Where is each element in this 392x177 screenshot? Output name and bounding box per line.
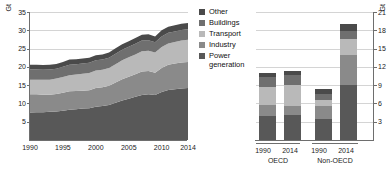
bar-label-nonoecd-2014: 2014 <box>333 147 359 155</box>
legend-swatch-icon <box>199 42 205 48</box>
bar-label-oecd-2014: 2014 <box>277 147 303 155</box>
left-axis-tick-5: 5 <box>12 118 26 125</box>
right-tickmark-15 <box>374 49 377 50</box>
nonoecd-group-rule <box>312 143 358 144</box>
legend-label: Power generation <box>209 52 244 69</box>
oecd-group-rule <box>256 143 300 144</box>
bar-segment-buildings <box>340 31 357 40</box>
legend-item-other[interactable]: Other <box>199 8 228 17</box>
right-tickmark-21 <box>374 12 377 13</box>
left-axis-tick-20: 20 <box>12 63 26 70</box>
chart-legend: OtherBuildingsTransportIndustryPower gen… <box>199 8 255 70</box>
right-axis-tick-18: 18 <box>378 27 392 34</box>
right-tickmark-6 <box>374 103 377 104</box>
right-tickmark-12 <box>374 67 377 68</box>
area-x-label-2010: 2010 <box>149 144 175 152</box>
right-axis-tick-3: 3 <box>378 118 392 125</box>
legend-swatch-icon <box>199 20 205 26</box>
left-axis-tick-35: 35 <box>12 9 26 16</box>
left-axis-tick-15: 15 <box>12 82 26 89</box>
left-axis-tick-25: 25 <box>12 45 26 52</box>
area-x-label-2000: 2000 <box>83 144 109 152</box>
bar-segment-power-generation <box>284 115 301 140</box>
bar-segment-buildings <box>284 75 301 85</box>
right-axis-tick-6: 6 <box>378 100 392 107</box>
area-x-axis <box>29 140 187 141</box>
legend-item-industry[interactable]: Industry <box>199 41 236 50</box>
right-axis-tick-9: 9 <box>378 82 392 89</box>
legend-swatch-icon <box>199 53 205 59</box>
area-x-label-1995: 1995 <box>50 144 76 152</box>
bar-segment-power-generation <box>259 116 276 140</box>
bar-segment-other <box>340 24 357 31</box>
right-tickmark-18 <box>374 30 377 31</box>
bar-segment-transport <box>259 87 276 105</box>
bar-segment-transport <box>315 100 332 107</box>
legend-swatch-icon <box>199 9 205 15</box>
bar-gridline-21 <box>256 12 373 13</box>
bar-group-label-nonoecd: Non-OECD <box>310 157 360 165</box>
bar-nonoecd-1990[interactable] <box>315 89 332 140</box>
bar-segment-transport <box>284 85 301 106</box>
left-axis-tick-10: 10 <box>12 100 26 107</box>
right-tickmark-3 <box>374 122 377 123</box>
right-axis-tick-12: 12 <box>378 63 392 70</box>
legend-label: Buildings <box>209 19 239 28</box>
bar-label-oecd-1990: 1990 <box>250 147 276 155</box>
area-series-svg <box>30 12 188 140</box>
area-x-label-2014: 2014 <box>175 144 201 152</box>
legend-label: Industry <box>209 41 236 50</box>
legend-label: Transport <box>209 30 241 39</box>
area-x-label-2005: 2005 <box>116 144 142 152</box>
legend-item-buildings[interactable]: Buildings <box>199 19 239 28</box>
left-axis-unit: Gt <box>5 4 12 11</box>
right-axis-unit: Gt <box>379 4 386 11</box>
legend-item-power-generation[interactable]: Power generation <box>199 52 244 69</box>
legend-label: Other <box>209 8 228 17</box>
bar-nonoecd-2014[interactable] <box>340 24 357 140</box>
chart-root: Gt 5101520253035 19901995200020052010201… <box>0 0 392 177</box>
bar-segment-industry <box>284 106 301 115</box>
bar-segment-power-generation <box>340 85 357 140</box>
bar-y-axis <box>373 12 374 140</box>
bar-oecd-1990[interactable] <box>259 73 276 140</box>
bar-segment-power-generation <box>315 119 332 140</box>
area-x-label-1990: 1990 <box>17 144 43 152</box>
legend-item-transport[interactable]: Transport <box>199 30 241 39</box>
bar-group-label-oecd: OECD <box>256 157 300 165</box>
bar-label-nonoecd-1990: 1990 <box>306 147 332 155</box>
bar-segment-industry <box>315 106 332 118</box>
bar-segment-industry <box>340 55 357 85</box>
bar-oecd-2014[interactable] <box>284 71 301 140</box>
bar-segment-buildings <box>259 77 276 87</box>
bar-segment-industry <box>259 105 276 117</box>
right-tickmark-9 <box>374 85 377 86</box>
right-axis-tick-15: 15 <box>378 45 392 52</box>
left-axis-tick-30: 30 <box>12 27 26 34</box>
bar-segment-transport <box>340 39 357 54</box>
bar-baseline <box>255 140 374 141</box>
legend-swatch-icon <box>199 31 205 37</box>
